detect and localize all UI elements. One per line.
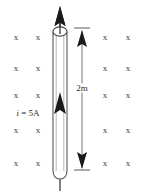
field-mark-x: x xyxy=(36,126,41,135)
field-mark-x: x xyxy=(103,64,108,73)
diagram-canvas xyxy=(0,0,141,191)
field-mark-x: x xyxy=(103,91,108,100)
field-mark-x: x xyxy=(126,33,131,42)
field-mark-x: x xyxy=(14,33,19,42)
current-label: i = 5A xyxy=(16,109,39,118)
field-mark-x: x xyxy=(14,91,19,100)
current-value: 5A xyxy=(29,108,40,118)
field-mark-x: x xyxy=(14,126,19,135)
field-mark-x: x xyxy=(126,159,131,168)
field-mark-x: x xyxy=(103,126,108,135)
field-mark-x: x xyxy=(36,159,41,168)
field-mark-x: x xyxy=(14,159,19,168)
dimension-line-group xyxy=(74,28,90,170)
field-mark-x: x xyxy=(126,91,131,100)
field-mark-x: x xyxy=(14,64,19,73)
field-mark-x: x xyxy=(36,64,41,73)
field-mark-x: x xyxy=(126,126,131,135)
length-label: 2m xyxy=(75,84,89,93)
physics-diagram-wire-in-magnetic-field: x x x x x x x x x x x x x x x x x x x x … xyxy=(0,0,141,191)
field-mark-x: x xyxy=(103,159,108,168)
field-mark-x: x xyxy=(126,64,131,73)
current-equals: = xyxy=(19,108,29,118)
field-mark-x: x xyxy=(103,33,108,42)
field-mark-x: x xyxy=(36,33,41,42)
field-mark-x: x xyxy=(36,91,41,100)
